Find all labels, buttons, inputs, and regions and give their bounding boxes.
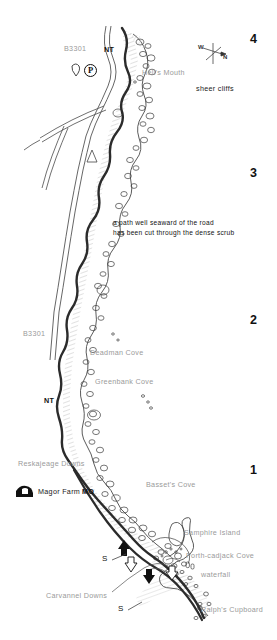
place-label-hells-mouth: Hell's Mouth [142, 68, 185, 77]
map-note-line-1: a path well seaward of the road [113, 218, 214, 228]
place-label-waterfall: waterfall [201, 570, 230, 579]
segment-number-4: 4 [250, 32, 257, 46]
nt-boundary-marker-south: NT [44, 396, 54, 405]
cliff-hatching [63, 30, 214, 612]
place-label-porth-cadjack-cove: Porth-cadjack Cove [186, 551, 254, 560]
map-canvas: 4 3 2 1 B3301 B3301 NT NT P Hell's Mouth… [0, 0, 277, 640]
road-junction-lanes [24, 106, 106, 190]
steep-marker-label-2: S [118, 604, 123, 613]
place-label-ralphs-cupboard: Ralph's Cupboard [201, 605, 263, 614]
place-label-magor-farm: Magor Farm [38, 487, 80, 496]
parking-symbol[interactable]: P [84, 64, 97, 77]
place-label-deadman-cove: Deadman Cove [90, 348, 144, 357]
compass-north-letter: N [223, 54, 227, 60]
segment-number-2: 2 [250, 313, 257, 327]
place-label-reskajeage-downs: Reskajeage Downs [18, 459, 85, 468]
place-label-samphire-island: Samphire Island [184, 528, 240, 537]
map-vector-layer [0, 0, 277, 640]
magor-farm-building-icon [16, 486, 33, 497]
samphire-island [169, 522, 184, 545]
place-label-greenbank-cove: Greenbank Cove [95, 377, 154, 386]
place-label-carvannel-downs: Carvannel Downs [46, 591, 107, 600]
place-label-mo: MO [82, 487, 94, 496]
viewpoint-marker-icon [72, 64, 80, 76]
road-lower [50, 312, 59, 360]
steep-marker-label-1: S [102, 554, 107, 563]
annotation-sheer-cliffs: sheer cliffs [196, 84, 234, 93]
nt-boundary-marker-north: NT [104, 45, 114, 54]
map-note-line-2: has been cut through the dense scrub [113, 228, 235, 238]
road-label-b3301-south: B3301 [23, 329, 45, 338]
segment-number-1: 1 [250, 463, 257, 477]
road-label-b3301-north: B3301 [64, 44, 86, 53]
place-label-bassets-cove: Basset's Cove [146, 480, 196, 489]
path-marker-triangle-icon [87, 150, 97, 162]
segment-number-3: 3 [250, 166, 257, 180]
compass-west-letter: W [198, 44, 204, 50]
